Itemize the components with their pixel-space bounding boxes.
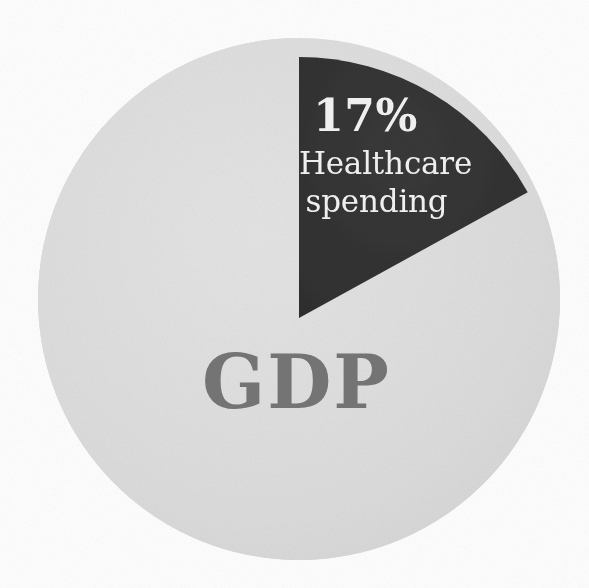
- slice-percent-label: 17%: [71, 94, 589, 138]
- pie-chart-figure: 17% Healthcare spending GDP: [0, 0, 589, 588]
- slice-category-label-line-2: spending: [82, 186, 589, 217]
- pie-whole-label-gdp: GDP: [2, 345, 589, 419]
- slice-category-label-line-1: Healthcare: [91, 148, 589, 179]
- pie-chart-canvas: [0, 0, 589, 588]
